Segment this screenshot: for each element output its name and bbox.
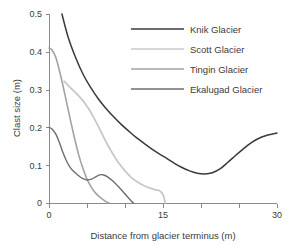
- x-tick-label-0: 0: [46, 210, 51, 220]
- y-tick-labels: 00.10.20.30.40.5: [29, 9, 42, 208]
- legend-label-1: Scott Glacier: [190, 44, 244, 55]
- series-line-scott-glacier: [64, 81, 165, 203]
- y-axis-title: Clast size (m): [11, 79, 22, 137]
- x-axis-title: Distance from glacier terminus (m): [90, 230, 235, 241]
- x-tick-label-6: 30: [272, 210, 282, 220]
- legend: Knik GlacierScott GlacierTingin GlacierE…: [131, 24, 262, 95]
- y-tick-label-0: 0: [37, 198, 42, 208]
- legend-label-0: Knik Glacier: [190, 24, 241, 35]
- y-tick-label-5: 0.5: [29, 9, 42, 19]
- legend-label-3: Ekalugad Glacier: [190, 84, 262, 95]
- legend-label-2: Tingin Glacier: [190, 64, 248, 75]
- y-tick-label-4: 0.4: [29, 47, 42, 57]
- y-tick-label-1: 0.1: [29, 161, 42, 171]
- x-tick-label-3: 15: [158, 210, 168, 220]
- chart-canvas: 01530 00.10.20.30.40.5 Distance from gla…: [0, 0, 285, 245]
- axis-lines: [49, 14, 277, 204]
- data-series: [49, 14, 277, 203]
- y-tick-label-2: 0.2: [29, 123, 42, 133]
- x-tick-labels: 01530: [46, 210, 282, 220]
- series-line-tingin-glacier: [49, 48, 109, 203]
- figure-container: 01530 00.10.20.30.40.5 Distance from gla…: [0, 0, 285, 245]
- y-tick-label-3: 0.3: [29, 85, 42, 95]
